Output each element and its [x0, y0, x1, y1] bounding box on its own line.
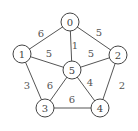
edge-weight-4-5: 4 — [87, 77, 93, 88]
node-1: 1 — [13, 45, 31, 63]
edge-weight-1-3: 3 — [24, 80, 30, 91]
edge-weight-0-1: 6 — [38, 28, 44, 39]
node-label: 1 — [19, 49, 25, 60]
edge-weight-2-5: 5 — [88, 48, 94, 59]
edge-weight-0-2: 5 — [96, 27, 102, 38]
node-5: 5 — [63, 61, 81, 79]
edge-weight-1-5: 5 — [46, 48, 52, 59]
edge-weight-3-5: 6 — [47, 80, 53, 91]
graph-diagram: 6515536426 012345 — [0, 0, 138, 131]
node-label: 4 — [97, 103, 103, 114]
node-3: 3 — [36, 99, 54, 117]
node-label: 3 — [42, 103, 48, 114]
node-0: 0 — [61, 13, 79, 31]
edge-weight-0-5: 1 — [72, 40, 78, 51]
node-label: 5 — [69, 65, 75, 76]
node-2: 2 — [109, 46, 127, 64]
node-label: 2 — [115, 50, 121, 61]
node-4: 4 — [91, 99, 109, 117]
node-label: 0 — [67, 17, 73, 28]
edge-weight-2-4: 2 — [119, 80, 125, 91]
edge-weight-3-4: 6 — [69, 94, 75, 105]
